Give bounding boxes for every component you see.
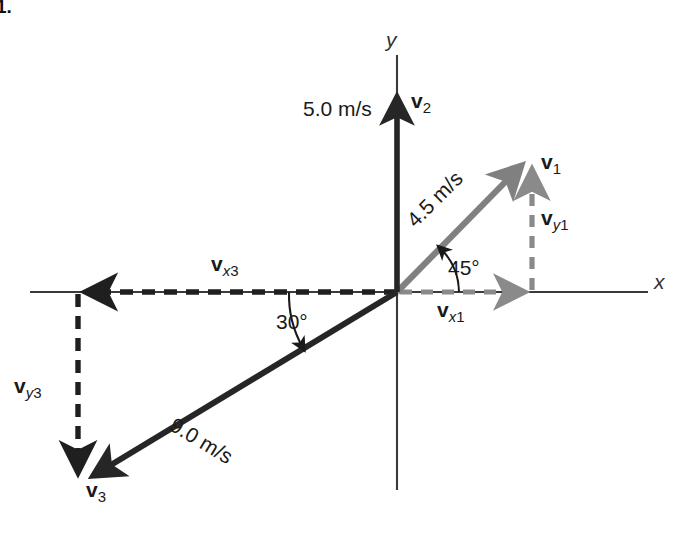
vector-label-v1-subscript: 1 (553, 160, 561, 177)
component-label-vy3: vy3 (14, 374, 42, 401)
vector-label-v2-symbol: v (411, 89, 423, 112)
component-label-vx3-symbol: v (211, 252, 223, 275)
vector-label-v3-subscript: 3 (98, 488, 106, 505)
vector-label-v2: v2 (411, 89, 431, 116)
vector-label-v3: v3 (86, 478, 106, 505)
angle-label-45: 45° (448, 256, 480, 280)
component-label-vy3-symbol: v (14, 374, 26, 397)
vector-v3-line (96, 292, 397, 474)
angle-label-30: 30° (276, 310, 308, 334)
component-label-vy3-subnum: 3 (33, 384, 41, 401)
component-label-vy1-symbol: v (541, 206, 553, 229)
component-label-vy1: vy1 (541, 206, 569, 233)
vector-label-v1-symbol: v (541, 150, 553, 173)
angle-arcs (289, 248, 459, 348)
component-label-vx3: vx3 (211, 252, 239, 279)
component-label-vy1-subnum: 1 (560, 216, 568, 233)
main-vectors (96, 100, 519, 474)
component-label-vx1: vx1 (437, 298, 465, 325)
y-axis-label: y (386, 28, 397, 52)
vector-diagram-svg (0, 0, 691, 535)
item-number: 1. (0, 0, 12, 18)
vector-label-v1: v1 (541, 150, 561, 177)
magnitude-label-v2: 5.0 m/s (303, 97, 372, 121)
vector-label-v3-symbol: v (86, 478, 98, 501)
figure-canvas: 1. x y 5.0 m/s 4.5 m/s 9.0 m/s 45° 30° v… (0, 0, 691, 535)
component-label-vx1-symbol: v (437, 298, 449, 321)
vector-label-v2-subscript: 2 (423, 99, 431, 116)
component-label-vx3-subnum: 3 (230, 262, 238, 279)
x-axis-label: x (654, 270, 665, 294)
component-label-vx1-subnum: 1 (456, 308, 464, 325)
